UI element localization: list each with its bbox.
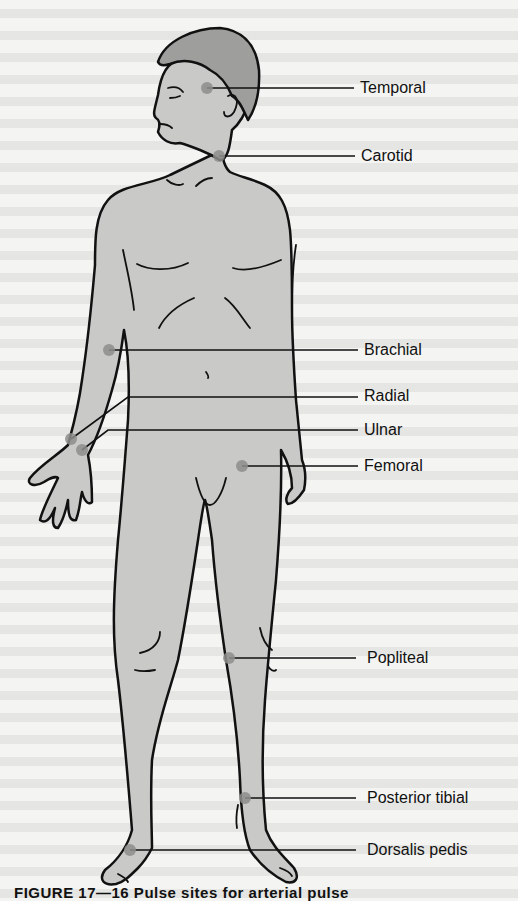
pulse-dot-radial — [65, 433, 77, 445]
figure-caption: FIGURE 17—16 Pulse sites for arterial pu… — [14, 884, 349, 901]
pulse-dot-ulnar — [76, 444, 88, 456]
pulse-dot-brachial — [103, 344, 115, 356]
label-ulnar: Ulnar — [364, 421, 402, 439]
label-radial: Radial — [364, 387, 409, 405]
label-carotid: Carotid — [361, 147, 413, 165]
label-temporal: Temporal — [360, 79, 426, 97]
pulse-dot-temporal — [201, 82, 213, 94]
pulse-dot-femoral — [236, 460, 248, 472]
label-brachial: Brachial — [364, 341, 422, 359]
label-popliteal: Popliteal — [367, 649, 428, 667]
pulse-dot-dorsalis-pedis — [124, 844, 136, 856]
label-femoral: Femoral — [364, 457, 423, 475]
pulse-dot-carotid — [213, 150, 225, 162]
label-posterior-tibial: Posterior tibial — [367, 789, 468, 807]
pulse-dot-posterior-tibial — [239, 792, 251, 804]
body-outline — [29, 37, 305, 884]
pulse-dot-popliteal — [223, 652, 235, 664]
label-dorsalis-pedis: Dorsalis pedis — [367, 841, 467, 859]
